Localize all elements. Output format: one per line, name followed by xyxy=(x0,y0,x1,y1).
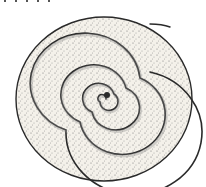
sausage-spiral-illustration xyxy=(0,0,206,187)
spiral-center xyxy=(104,92,110,98)
sausage-coil xyxy=(16,17,202,187)
sausage-tail xyxy=(150,24,170,27)
